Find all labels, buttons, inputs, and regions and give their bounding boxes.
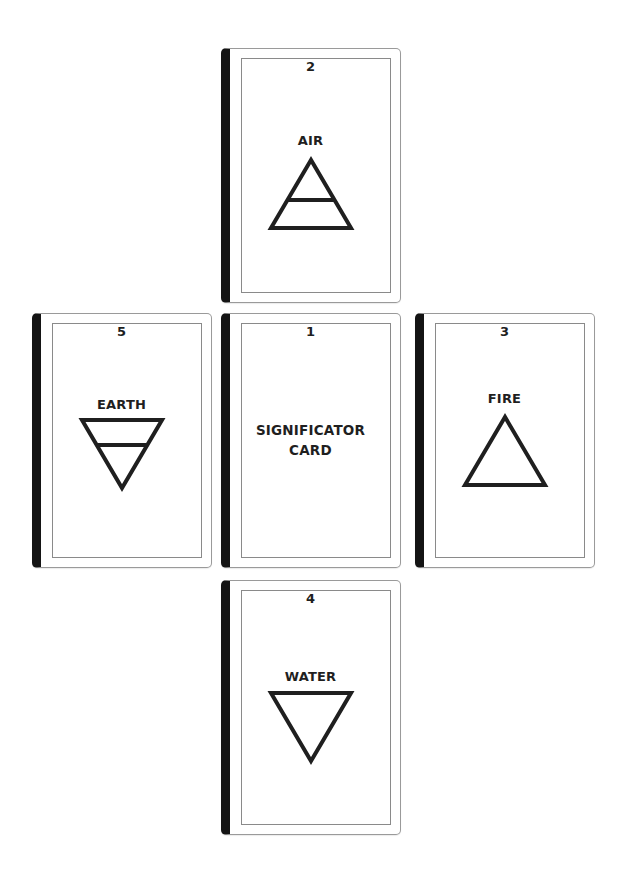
card-label: EARTH — [32, 397, 211, 412]
card-label: AIR — [221, 133, 400, 148]
air-triangle-icon — [266, 155, 356, 233]
card-number: 2 — [221, 59, 400, 74]
card-number: 5 — [32, 324, 211, 339]
card-label: WATER — [221, 669, 400, 684]
water-triangle-icon — [266, 688, 356, 766]
card-label-line2: CARD — [221, 440, 400, 460]
card-number: 1 — [221, 324, 400, 339]
card-water[interactable]: 4 WATER — [221, 580, 401, 835]
card-significator[interactable]: 1 SIGNIFICATOR CARD — [221, 313, 401, 568]
card-number: 4 — [221, 591, 400, 606]
card-label: SIGNIFICATOR CARD — [221, 420, 400, 460]
card-number: 3 — [415, 324, 594, 339]
card-label: FIRE — [415, 391, 594, 406]
card-fire[interactable]: 3 FIRE — [415, 313, 595, 568]
card-air[interactable]: 2 AIR — [221, 48, 401, 303]
card-earth[interactable]: 5 EARTH — [32, 313, 212, 568]
fire-triangle-icon — [460, 412, 550, 490]
earth-triangle-icon — [77, 415, 167, 493]
card-label-line1: SIGNIFICATOR — [221, 420, 400, 440]
